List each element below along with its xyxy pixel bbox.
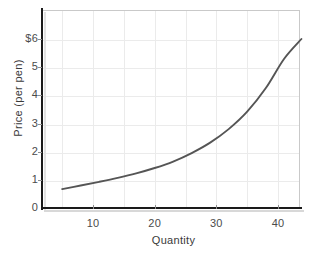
y-tick-mark <box>38 95 42 96</box>
x-tick-mark <box>93 205 94 209</box>
x-tick-label: 30 <box>196 217 236 229</box>
y-tick-mark <box>38 180 42 181</box>
y-tick-label: 1 <box>8 173 38 185</box>
y-axis-shadow <box>44 12 46 210</box>
x-tick-mark <box>216 205 217 209</box>
x-axis-line <box>41 207 302 209</box>
x-tick-label: 10 <box>73 217 113 229</box>
y-tick-mark <box>38 39 42 40</box>
y-tick-mark <box>38 67 42 68</box>
y-tick-label: 0 <box>8 201 38 213</box>
supply-curve-line <box>62 39 301 189</box>
x-tick-label: 40 <box>258 217 298 229</box>
y-tick-mark <box>38 152 42 153</box>
x-axis-title-text: Quantity <box>152 234 195 246</box>
y-axis-title: Price (per pen) <box>12 28 24 168</box>
chart-figure: 10203040 012345$6 Quantity Price (per pe… <box>0 0 309 255</box>
x-tick-mark <box>155 205 156 209</box>
y-axis-title-text: Price (per pen) <box>12 59 24 136</box>
x-axis-shadow <box>44 210 304 212</box>
y-tick-mark <box>38 124 42 125</box>
x-axis-title: Quantity <box>0 234 309 246</box>
x-tick-label: 20 <box>135 217 175 229</box>
x-tick-mark <box>278 205 279 209</box>
